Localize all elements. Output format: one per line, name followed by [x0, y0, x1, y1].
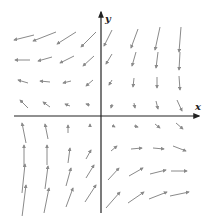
vector-arrow — [128, 192, 144, 203]
vector-arrow — [86, 150, 91, 159]
vector-arrow — [38, 57, 52, 61]
vector-arrow — [134, 103, 135, 108]
vector-arrow — [155, 124, 160, 128]
vector-arrow — [20, 100, 28, 108]
vector-arrow — [109, 80, 112, 85]
vector-arrow — [149, 192, 167, 199]
vector-arrow — [65, 104, 70, 106]
vector-arrow — [179, 76, 180, 90]
vector-arrow — [132, 52, 136, 66]
vector-arrow — [111, 104, 112, 108]
vector-arrow — [33, 32, 56, 41]
vector-arrow — [133, 78, 134, 87]
vector-arrow — [150, 170, 166, 174]
vector-arrow — [176, 123, 183, 129]
vector-arrow — [106, 192, 120, 208]
vector-field-plot: x y — [0, 0, 209, 216]
y-axis-label: y — [104, 13, 112, 24]
vector-arrow — [179, 52, 180, 70]
vector-arrow — [129, 168, 143, 176]
vector-arrow — [22, 164, 25, 193]
vector-arrow — [40, 81, 50, 82]
vector-arrow — [106, 54, 112, 64]
vector-arrow — [22, 123, 26, 143]
vector-arrow — [104, 30, 112, 46]
vector-arrow — [81, 32, 96, 47]
vector-arrow — [108, 168, 119, 180]
vector-arrow — [131, 29, 138, 48]
vector-arrow — [86, 80, 93, 86]
vector-arrow — [43, 102, 50, 107]
vector-arrow — [14, 35, 34, 40]
vector-arrow — [45, 124, 48, 139]
vector-arrow — [156, 101, 158, 109]
vector-arrow — [45, 166, 48, 189]
vector-arrow — [177, 100, 182, 111]
x-axis-label: x — [194, 101, 202, 112]
vector-arrow — [179, 27, 181, 52]
vector-arrow — [134, 126, 138, 127]
vector-arrow — [18, 80, 28, 83]
vector-arrow — [66, 168, 71, 186]
vector-arrow — [63, 81, 71, 83]
vector-arrow — [155, 27, 160, 50]
vector-arrow — [170, 192, 189, 196]
vector-arrow — [86, 165, 94, 178]
vector-arrow — [66, 188, 73, 207]
vector-arrow — [57, 32, 76, 44]
vector-arrow — [83, 56, 94, 66]
vector-arrow — [173, 146, 186, 151]
vector-arrow — [131, 148, 142, 149]
vector-arrow — [156, 52, 158, 68]
vector-arrow — [85, 185, 96, 202]
vector-arrow — [153, 148, 164, 149]
vector-arrow — [111, 146, 117, 151]
vector-arrow — [68, 148, 70, 163]
vector-arrow — [60, 56, 74, 63]
vector-arrow — [113, 126, 115, 127]
vector-arrow — [44, 188, 49, 213]
vector-arrow — [86, 104, 90, 105]
